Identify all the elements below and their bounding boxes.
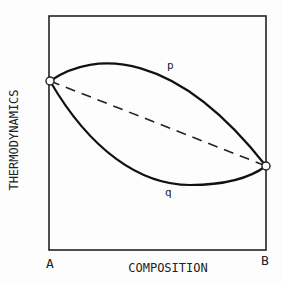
plot-frame bbox=[49, 16, 266, 250]
thermodynamics-composition-diagram: p q A B COMPOSITION THERMODYNAMICS bbox=[0, 0, 282, 284]
endpoint-a-label: A bbox=[46, 256, 54, 271]
endpoint-b-label: B bbox=[261, 253, 269, 268]
y-axis-label: THERMODYNAMICS bbox=[7, 89, 21, 190]
dashed-tie-line bbox=[50, 81, 266, 166]
endpoint-b-marker bbox=[262, 162, 270, 170]
x-axis-label: COMPOSITION bbox=[128, 261, 207, 275]
curve-p bbox=[50, 63, 266, 166]
curve-q-label: q bbox=[165, 186, 172, 199]
curve-p-label: p bbox=[167, 59, 174, 72]
endpoint-a-marker bbox=[46, 77, 54, 85]
diagram-svg: p q A B COMPOSITION THERMODYNAMICS bbox=[0, 0, 282, 284]
curve-q bbox=[50, 81, 266, 185]
